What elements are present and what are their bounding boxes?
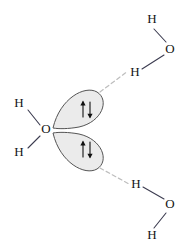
lower-hydrogen-bond [100,168,129,184]
central-hydrogen-lower-label: H [14,144,23,159]
lower-right-oxygen-label: O [165,196,174,211]
lower-right-bond-oh-bottom [154,213,166,228]
lower-right-water-molecule: H O H [131,176,174,242]
lower-right-hydrogen-bottom-label: H [147,227,156,242]
diagram-canvas: O H H H O H H O H [0,0,189,249]
central-oxygen-label: O [41,121,50,136]
upper-right-hydrogen-top-label: H [147,11,156,26]
lower-right-hydrogen-bridge-label: H [131,176,140,191]
central-water-molecule: O H H [14,90,103,171]
upper-lone-pair-lobe [53,90,103,129]
central-bond-oh-lower [28,136,40,148]
central-bond-oh-upper [28,110,40,125]
lower-lone-pair-lobe [53,132,103,171]
upper-right-bond-oh-bridge [142,55,164,69]
upper-right-water-molecule: H O H [130,11,174,79]
upper-hydrogen-bond [100,71,128,92]
water-hydrogen-bonding-diagram: O H H H O H H O H [0,0,189,249]
upper-right-hydrogen-bridge-label: H [130,64,139,79]
upper-right-bond-oh-top [154,29,166,42]
central-hydrogen-upper-label: H [14,95,23,110]
upper-right-oxygen-label: O [165,41,174,56]
lower-right-bond-oh-bridge [143,187,164,199]
